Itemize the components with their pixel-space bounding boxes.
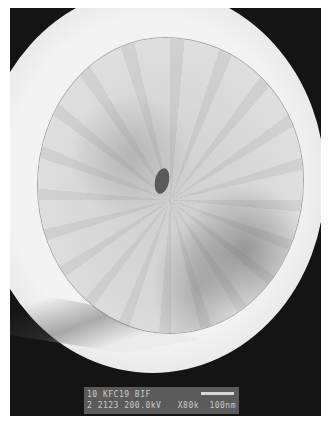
micrograph-caption: 10 KFC19 BIF 2 2123 200.0kV X80k 100nm [84, 387, 239, 414]
caption-line-2: 2 2123 200.0kV [87, 400, 161, 411]
caption-line-1: 10 KFC19 BIF [87, 389, 151, 400]
scale-bar [201, 392, 234, 395]
particle [38, 38, 303, 333]
magnification-label: X80k [178, 400, 199, 411]
micrograph-frame [10, 8, 321, 416]
scale-label: 100nm [209, 400, 236, 411]
